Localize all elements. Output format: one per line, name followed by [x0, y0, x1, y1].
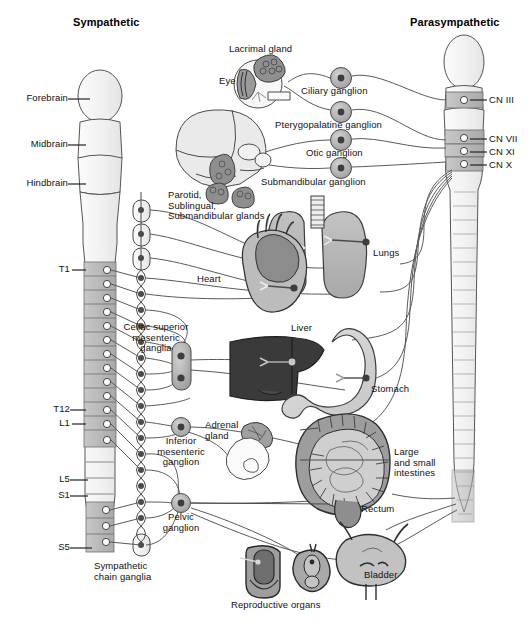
- label-l5: L5: [40, 474, 70, 485]
- label-t12: T12: [38, 404, 70, 415]
- forebrain-shape: [78, 70, 122, 122]
- label-s5: S5: [40, 542, 70, 553]
- prevertebral-ganglia: [172, 342, 192, 513]
- label-stomach: Stomach: [371, 384, 409, 395]
- label-cn-iii: CN III: [489, 95, 514, 106]
- label-heart: Heart: [197, 274, 221, 285]
- label-reproductive-organs: Reproductive organs: [231, 600, 321, 611]
- hindbrain-shape: [78, 155, 122, 195]
- label-bladder: Bladder: [364, 570, 397, 581]
- label-salivary-glands: Parotid, Sublingual, Submandibular gland…: [168, 190, 265, 222]
- bladder-organ: [336, 522, 408, 600]
- label-lacrimal-gland: Lacrimal gland: [229, 44, 292, 55]
- label-cn-x: CN X: [489, 160, 512, 171]
- label-t1: T1: [40, 264, 70, 275]
- label-sympathetic-chain-ganglia: Sympathetic chain ganglia: [94, 561, 151, 582]
- para-cord-shape: [445, 132, 483, 512]
- label-pterygopalatine-ganglion: Pterygopalatine ganglion: [275, 120, 382, 131]
- sympathetic-segments: [84, 262, 116, 552]
- reproductive-organs: [240, 544, 330, 598]
- label-lungs: Lungs: [373, 248, 399, 259]
- label-hindbrain: Hindbrain: [12, 178, 68, 189]
- label-celiac-ganglia: Celiac superior mesenteric ganglia: [108, 322, 204, 354]
- label-midbrain: Midbrain: [12, 139, 68, 150]
- label-submandibular-ganglion: Submandibular ganglion: [261, 177, 366, 188]
- label-cn-xi: CN XI: [489, 147, 515, 158]
- liver-organ: [230, 337, 324, 401]
- label-ciliary-ganglion: Ciliary ganglion: [301, 86, 368, 97]
- label-forebrain: Forebrain: [12, 93, 68, 104]
- autonomic-nervous-system-figure: Sympathetic Parasympathetic Forebrain Mi…: [0, 0, 530, 622]
- title-sympathetic: Sympathetic: [73, 16, 140, 28]
- label-adrenal-gland: Adrenal gland: [205, 420, 238, 441]
- label-intestines: Large and small intestines: [394, 447, 436, 479]
- label-otic-ganglion: Otic ganglion: [306, 148, 363, 159]
- label-liver: Liver: [291, 323, 312, 334]
- label-rectum: Rectum: [361, 504, 394, 515]
- title-parasympathetic: Parasympathetic: [410, 16, 500, 28]
- lacrimal-gland-organ: [254, 55, 285, 82]
- diagram-canvas: [0, 0, 530, 622]
- para-forebrain-shape: [444, 35, 484, 89]
- label-cn-vii: CN VII: [489, 134, 518, 145]
- label-pelvic-ganglion: Pelvic ganglion: [148, 512, 214, 533]
- label-eye: Eye: [219, 76, 236, 87]
- label-l1: L1: [40, 418, 70, 429]
- label-s1: S1: [40, 490, 70, 501]
